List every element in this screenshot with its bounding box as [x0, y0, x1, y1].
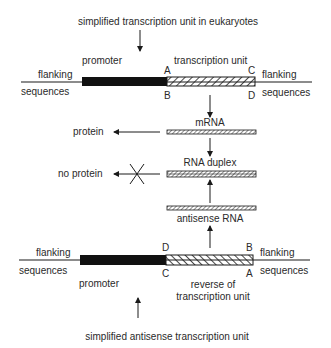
top-right-flank-line2: sequences [262, 88, 310, 98]
mrna-bar [167, 130, 256, 134]
bottom-promoter-block [80, 255, 166, 265]
antisense-rna-label: antisense RNA [177, 214, 244, 224]
top-transcription-unit-block [167, 77, 255, 86]
top-left-flank-line2: sequences [21, 87, 69, 97]
bottom-reverse-unit-block [166, 255, 253, 265]
top-label-b: B [164, 91, 171, 101]
blocked-translation-icon [114, 164, 160, 184]
mrna-label: mRNA [195, 118, 224, 128]
top-promoter-label: promoter [82, 56, 122, 66]
bottom-unit-label-line2: transcription unit [176, 292, 249, 302]
top-label-c: C [248, 66, 255, 76]
bottom-right-flank-line2: sequences [260, 266, 308, 276]
protein-label: protein [73, 127, 104, 137]
top-label-d: D [248, 91, 255, 101]
top-left-flank-line1: flanking [38, 70, 72, 80]
bottom-left-flank-line2: sequences [19, 266, 67, 276]
bottom-label-a: A [246, 269, 253, 279]
bottom-label-b: B [246, 243, 253, 253]
bottom-left-flank-line1: flanking [36, 248, 70, 258]
bottom-right-flank-line1: flanking [260, 248, 294, 258]
bottom-label-c: C [162, 269, 169, 279]
rna-duplex-label: RNA duplex [184, 158, 237, 168]
antisense-rna-bar [167, 206, 256, 210]
bottom-label-d: D [162, 243, 169, 253]
diagram-graphics [0, 0, 331, 348]
bottom-title: simplified antisense transcription unit [85, 332, 248, 342]
top-unit-label: transcription unit [174, 56, 247, 66]
top-title: simplified transcription unit in eukaryo… [78, 17, 258, 27]
no-protein-label: no protein [58, 169, 102, 179]
bottom-unit-label-line1: reverse of [191, 280, 235, 290]
top-right-flank-line1: flanking [262, 70, 296, 80]
top-promoter-block [82, 77, 167, 86]
bottom-promoter-label: promoter [79, 279, 119, 289]
top-label-a: A [164, 66, 171, 76]
